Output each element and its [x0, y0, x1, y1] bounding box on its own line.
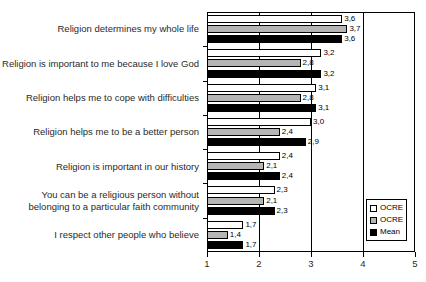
legend-label: OCRE [380, 204, 403, 212]
category-label: Religion helps me to be a better person [0, 115, 203, 149]
bar-value-label: 2,1 [264, 162, 277, 170]
legend-item: OCRE [370, 214, 403, 226]
bar [207, 84, 316, 92]
x-axis-tick-labels: 12345 [207, 258, 415, 272]
bar-line: 1,7 [207, 241, 415, 249]
bar-value-label: 3,2 [321, 70, 334, 78]
bar-line: 3,1 [207, 84, 415, 92]
legend-label: Mean [380, 228, 400, 236]
bar-value-label: 3,6 [342, 35, 355, 43]
bar [207, 152, 280, 160]
bar [207, 241, 243, 249]
bar-line: 3,2 [207, 70, 415, 78]
bar [207, 221, 243, 229]
x-axis-tick [311, 252, 312, 257]
y-axis-tick [203, 81, 207, 82]
bar-value-label: 2,1 [264, 197, 277, 205]
bar-value-label: 3,0 [311, 118, 324, 126]
bar-line: 3,6 [207, 15, 415, 23]
bar-line: 2,4 [207, 152, 415, 160]
bar-value-label: 2,9 [306, 138, 319, 146]
category-label: Religion determines my whole life [0, 12, 203, 46]
bar-value-label: 3,1 [316, 84, 329, 92]
bar-chart: Religion determines my whole lifeReligio… [0, 0, 426, 282]
bar-group: 2,42,12,4 [207, 149, 415, 183]
bar-group: 3,63,73,6 [207, 12, 415, 46]
bar-line: 2,1 [207, 162, 415, 170]
bar-line: 2,4 [207, 128, 415, 136]
x-axis-tick-label: 3 [308, 258, 313, 269]
bar-group: 3,22,83,2 [207, 46, 415, 80]
x-axis-tick-label: 4 [360, 258, 365, 269]
x-axis-tick [259, 252, 260, 257]
bar-value-label: 3,7 [347, 25, 360, 33]
x-axis-tick [207, 252, 208, 257]
gray-square-icon [370, 217, 377, 224]
bar-value-label: 2,8 [301, 94, 314, 102]
bar-value-label: 2,8 [301, 59, 314, 67]
y-axis-tick [203, 183, 207, 184]
x-axis-tick [363, 252, 364, 257]
bar-value-label: 2,4 [280, 128, 293, 136]
category-axis-labels: Religion determines my whole lifeReligio… [0, 12, 203, 252]
legend-item: OCRE [370, 202, 403, 214]
bar [207, 70, 321, 78]
bar-line: 3,0 [207, 118, 415, 126]
category-label: Religion is important in our history [0, 149, 203, 183]
bar-line: 3,7 [207, 25, 415, 33]
bar [207, 25, 347, 33]
legend-label: OCRE [380, 216, 403, 224]
bar [207, 186, 275, 194]
x-axis-tick-label: 5 [412, 258, 417, 269]
x-axis-tick [415, 252, 416, 257]
bar [207, 231, 228, 239]
legend-item: Mean [370, 226, 403, 238]
bar [207, 128, 280, 136]
y-axis-tick [203, 149, 207, 150]
bar [207, 35, 342, 43]
bar-value-label: 3,1 [316, 104, 329, 112]
bar-group: 3,02,42,9 [207, 115, 415, 149]
category-label: You can be a religious person without be… [0, 183, 203, 217]
category-label: Religion helps me to cope with difficult… [0, 81, 203, 115]
bar-line: 3,6 [207, 35, 415, 43]
category-label: I respect other people who believe [0, 218, 203, 252]
bar-value-label: 3,6 [342, 15, 355, 23]
bar-value-label: 2,3 [275, 186, 288, 194]
bar [207, 207, 275, 215]
bar-line: 2,8 [207, 59, 415, 67]
bar [207, 138, 306, 146]
bar-group: 3,12,83,1 [207, 81, 415, 115]
bar-line: 3,1 [207, 104, 415, 112]
white-square-icon [370, 205, 377, 212]
x-axis-tick-label: 1 [204, 258, 209, 269]
bar [207, 104, 316, 112]
bar [207, 118, 311, 126]
bar [207, 162, 264, 170]
bar-value-label: 1,7 [243, 241, 256, 249]
bar-value-label: 3,2 [321, 49, 334, 57]
y-axis-tick [203, 218, 207, 219]
y-axis-tick [203, 115, 207, 116]
black-square-icon [370, 229, 377, 236]
y-axis-tick [203, 46, 207, 47]
bar [207, 197, 264, 205]
bar-value-label: 2,3 [275, 207, 288, 215]
bar-line: 2,3 [207, 186, 415, 194]
bar-value-label: 2,4 [280, 152, 293, 160]
bar-line: 2,8 [207, 94, 415, 102]
bar-value-label: 2,4 [280, 172, 293, 180]
bar [207, 15, 342, 23]
bar [207, 94, 301, 102]
bar-line: 2,9 [207, 138, 415, 146]
category-label: Religion is important to me because I lo… [0, 46, 203, 80]
x-axis-tick-label: 2 [256, 258, 261, 269]
bar-value-label: 1,4 [228, 231, 241, 239]
bar-value-label: 1,7 [243, 221, 256, 229]
bar [207, 59, 301, 67]
chart-legend: OCREOCREMean [366, 199, 407, 241]
bar-line: 2,4 [207, 172, 415, 180]
bar-line: 3,2 [207, 49, 415, 57]
bar [207, 172, 280, 180]
bar [207, 49, 321, 57]
